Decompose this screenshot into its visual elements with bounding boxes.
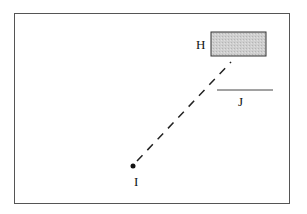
label-j: J: [238, 95, 243, 108]
point-i: [131, 164, 136, 169]
dashed-line-i-to-h: [137, 62, 231, 161]
label-i: I: [134, 175, 138, 188]
label-h: H: [196, 38, 205, 51]
diagram-canvas: [0, 0, 307, 214]
shaded-rectangle-h: [211, 32, 266, 56]
